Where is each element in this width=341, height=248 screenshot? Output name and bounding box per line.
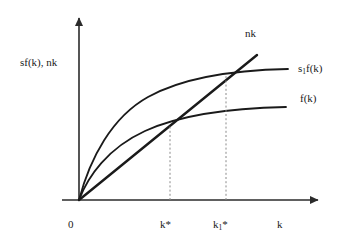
curve-label-s1fk-subscript: 1	[302, 67, 306, 76]
curve-fk	[79, 107, 286, 200]
x-axis-label: k	[277, 219, 283, 230]
plot-canvas	[0, 0, 341, 248]
x-tick-label-k1star-prefix: k	[213, 218, 219, 230]
x-tick-label-kstar: k*	[160, 219, 171, 230]
curve-nk	[79, 55, 257, 200]
curve-label-fk: f(k)	[300, 93, 317, 104]
curve-label-s1fk-suffix: f(k)	[306, 62, 323, 74]
x-tick-label-k1star-suffix: *	[222, 218, 228, 230]
x-tick-label-k1star-subscript: 1	[219, 223, 223, 232]
y-axis-label: sf(k), nk	[20, 57, 57, 68]
curve-label-nk: nk	[245, 28, 256, 39]
curve-s1fk	[79, 69, 288, 200]
curve-label-s1fk: s1f(k)	[298, 63, 323, 74]
solow-model-figure: sf(k), nk nk s1f(k) f(k) 0 k* k1* k	[0, 0, 341, 248]
origin-label: 0	[68, 219, 74, 230]
x-tick-label-k1star: k1*	[213, 219, 228, 230]
